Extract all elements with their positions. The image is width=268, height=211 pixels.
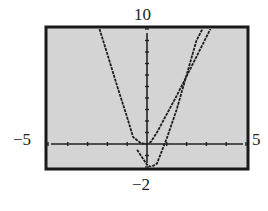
graph-window [0, 0, 268, 211]
